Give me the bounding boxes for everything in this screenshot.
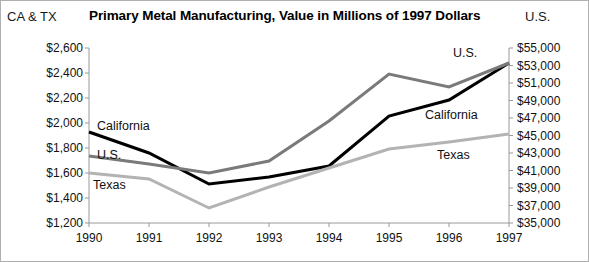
series-label-texas: Texas: [437, 149, 470, 162]
series-label-california: California: [425, 109, 478, 122]
chart-container: CA & TX Primary Metal Manufacturing, Val…: [0, 0, 589, 262]
series-label-us: U.S.: [453, 47, 477, 60]
series-label-us: U.S.: [97, 149, 121, 162]
series-label-texas: Texas: [93, 179, 126, 192]
series-annotations: CaliforniaU.S.TexasU.S.CaliforniaTexas: [1, 1, 589, 262]
series-label-california: California: [97, 120, 150, 133]
